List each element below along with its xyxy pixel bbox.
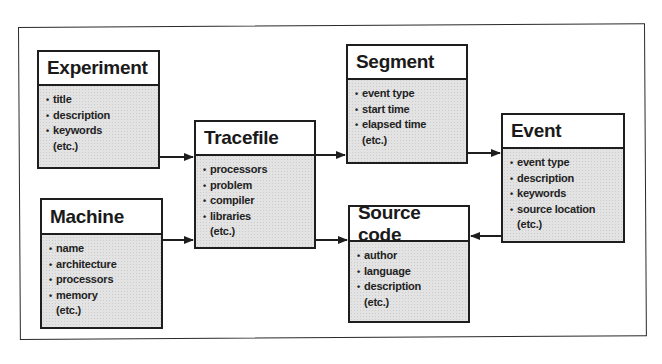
attribute: name: [49, 241, 161, 257]
attribute: keywords: [46, 123, 158, 139]
entity-tracefile: Tracefile processors problem compiler li…: [194, 120, 316, 249]
attribute: processors: [49, 272, 161, 288]
entity-title: Tracefile: [196, 122, 314, 156]
attribute: keywords: [510, 186, 623, 202]
attribute: title: [46, 92, 158, 108]
attribute: memory: [49, 288, 161, 304]
entity-attributes: title description keywords (etc.): [39, 86, 158, 153]
attribute: event type: [510, 155, 623, 171]
attribute: description: [46, 108, 158, 124]
attribute: description: [510, 171, 623, 187]
entity-machine: Machine name architecture processors mem…: [40, 198, 163, 329]
attribute-etc: (etc.): [203, 224, 314, 239]
entity-attributes: event type start time elapsed time (etc.…: [348, 80, 466, 147]
attribute: problem: [203, 178, 314, 194]
attribute: libraries: [203, 209, 314, 225]
attribute: source location: [510, 202, 623, 218]
entity-title: Segment: [348, 46, 466, 80]
attribute: language: [357, 264, 468, 280]
entity-experiment: Experiment title description keywords (e…: [37, 50, 160, 169]
attribute-etc: (etc.): [510, 217, 623, 232]
entity-attributes: author language description (etc.): [350, 242, 468, 309]
entity-segment: Segment event type start time elapsed ti…: [346, 44, 468, 164]
attribute: compiler: [203, 193, 314, 209]
attribute: elapsed time: [355, 117, 466, 133]
entity-attributes: name architecture processors memory (etc…: [42, 235, 161, 318]
attribute: start time: [355, 102, 466, 118]
attribute: architecture: [49, 257, 161, 273]
attribute-etc: (etc.): [355, 133, 466, 148]
attribute: description: [357, 279, 468, 295]
attribute: author: [357, 248, 468, 264]
entity-title: Experiment: [39, 52, 158, 86]
entity-title: Machine: [42, 200, 161, 235]
entity-source-code: Source code author language description …: [348, 205, 470, 323]
entity-title: Source code: [350, 207, 468, 242]
attribute-etc: (etc.): [49, 303, 161, 318]
entity-event: Event event type description keywords so…: [501, 113, 625, 243]
entity-attributes: event type description keywords source l…: [503, 149, 623, 232]
entity-title: Event: [503, 115, 623, 149]
attribute-etc: (etc.): [46, 139, 158, 154]
attribute: processors: [203, 162, 314, 178]
entity-attributes: processors problem compiler libraries (e…: [196, 156, 314, 239]
attribute-etc: (etc.): [357, 295, 468, 310]
attribute: event type: [355, 86, 466, 102]
